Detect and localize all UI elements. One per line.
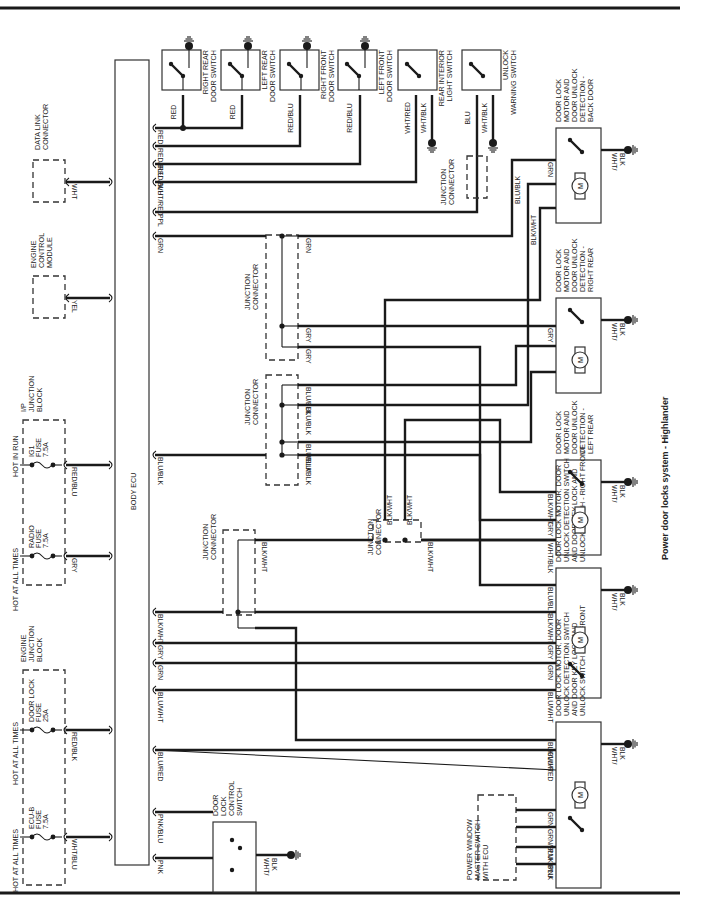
rightfront-w1-label: BLK/WHT: [547, 614, 554, 644]
door-switch-1-ground-icon: [243, 37, 253, 50]
backdoor-w0-label: GRN: [547, 162, 554, 177]
lf-redblu-wire: [155, 95, 360, 164]
splice-dot: [402, 537, 407, 542]
label-line: SWITCH: [235, 788, 244, 816]
splice-dot: [238, 846, 242, 850]
splice-dot: [230, 838, 234, 842]
door-switch-3-label: LEFT FRONTDOOR SWITCH: [377, 49, 394, 102]
wiring-diagram: Power door locks system - HighlanderBODY…: [0, 0, 703, 921]
ecu-wire-5-label: GRN: [157, 238, 164, 253]
label-line: CONNECTOR: [251, 264, 260, 310]
door-switch-0-box: [162, 50, 201, 90]
leftrear-w0-label: BLK/WHT: [547, 494, 554, 524]
ecu-wire-13-label: PNK: [157, 860, 164, 874]
door-lock-control-switch-label: DOORLOCKCONTROLSWITCH: [211, 781, 244, 816]
ecu-wire-10-label: BLU/WHT: [157, 692, 164, 723]
ecu-wire-3-label: WHT/RED: [157, 184, 164, 216]
label-line: BLOCK: [35, 387, 44, 412]
junction-connector-grn-gry-label: JUNCTIONCONNECTOR: [243, 264, 260, 310]
motor-label: M: [576, 792, 585, 798]
rightfront-w3-label: GRN: [547, 665, 554, 680]
label-line: WHT/: [611, 747, 618, 764]
data-link-wire-label: WHT: [71, 184, 78, 199]
junction-connector-center-label: JUNCTIONCONNECTOR: [366, 509, 383, 555]
label-line: 7.5A: [41, 533, 50, 548]
jc-blublk-3-label: BLU/BLK: [305, 457, 312, 485]
jc-blublk-1-label: BLU/BLK: [305, 407, 312, 435]
fuse-doorlock-label: DOOR LOCKFUSE25A: [27, 679, 50, 722]
rf-redblu-wire: [155, 95, 300, 146]
door-switch-2-ground-icon: [302, 37, 312, 50]
rr-blublk2-wire: [298, 372, 556, 442]
interior-whtred-wire: [155, 95, 416, 182]
label-line: DOOR SWITCH: [385, 50, 394, 102]
backdoor-w2-label: BLK/WHT: [530, 215, 537, 245]
interior-w1-label: WHT/RED: [404, 102, 411, 134]
leftfront-w5-label: PNK: [547, 866, 554, 880]
label-line: DOOR SWITCH: [327, 50, 336, 102]
motor-label: M: [576, 637, 585, 643]
label-line: 7.5A: [41, 442, 50, 457]
ip-junction-block-label: I/PJUNCTIONBLOCK: [19, 376, 44, 412]
ecu-wire-6-label: BLU/BLK: [157, 457, 164, 485]
label-line: WHT/: [611, 593, 618, 610]
label-line: WHT/: [611, 485, 618, 502]
leftfront-w1-label: BLU/RED: [547, 752, 554, 782]
motor-leftfront-icon: M: [572, 782, 588, 808]
motor-label: M: [576, 183, 585, 189]
jc-grn-gry-0-label: GRN: [305, 238, 312, 253]
actuator-4-ground-label: WHT/BLK: [611, 747, 626, 764]
label-line: 25A: [41, 709, 50, 722]
unlock-ground-icon: [488, 139, 498, 152]
actuator-1-box: [556, 298, 601, 393]
leftfront-blkwht-wire: [255, 628, 556, 740]
leftfront-w2-label: GRN: [547, 812, 554, 827]
door-switch-1-label: LEFT REARDOOR SWITCH: [260, 50, 277, 102]
junction-connector-blkwht-box: [223, 530, 255, 615]
unlock-w2-label: WHT/BLK: [481, 102, 488, 133]
power-wire-doorlock-label: RED/BLK: [71, 732, 78, 762]
motor-rightrear-icon: M: [572, 347, 588, 373]
fuse-ecub-icon: [30, 834, 56, 840]
power-wire-ecub-label: WHT/BLU: [71, 839, 78, 870]
door-lock-control-switch-box: [213, 822, 256, 892]
ecm-label: ENGINECONTROLMODULE: [29, 233, 54, 268]
splice-dot: [279, 402, 284, 407]
ecm-box: [33, 276, 65, 318]
label-line: BLK: [619, 593, 626, 606]
door-switch-0-label: RIGHT REARDOOR SWITCH: [201, 50, 218, 102]
splice-dot: [279, 452, 284, 457]
ground-terminal: [185, 42, 193, 50]
center-jc-1-label: BLK/WHT: [406, 495, 413, 525]
rr-blublk-wire: [298, 346, 556, 385]
junction-connector-blublk-label: JUNCTIONCONNECTOR: [243, 379, 260, 425]
backdoor-blkwht-wire: [385, 208, 556, 520]
label-line: WHT/: [611, 323, 618, 340]
fuse-ecub-label: ECU-BFUSE7.5A: [27, 806, 50, 829]
label-line: 7.5A: [41, 814, 50, 829]
label-line: CONNECTOR: [209, 514, 218, 560]
motor-label: M: [576, 517, 585, 523]
door-switch-1-box: [221, 50, 260, 90]
unlock-blu-wire: [155, 95, 477, 212]
splice-dot: [180, 125, 186, 131]
power-condition-ig1: HOT IN RUN: [11, 435, 20, 477]
door-switch-4-label: REAR INTERIORLIGHT SWITCH: [437, 50, 454, 106]
splice-dot: [382, 537, 387, 542]
data-link-connector-box: [33, 160, 65, 202]
door-switch-5-box: [462, 50, 501, 90]
rightfront-w0-label: BLU/BLK: [547, 587, 554, 615]
motor-rightfront-icon: M: [572, 627, 588, 653]
lr-wire-label: RED: [229, 105, 236, 119]
label-line: RIGHT REAR: [586, 248, 595, 292]
label-line: CONNECTOR: [447, 159, 456, 205]
unlock-w1-label: BLU: [464, 111, 471, 124]
actuator-2-label: DOOR LOCKMOTOR ANDDOOR UNLOCKDETECTION -…: [554, 400, 595, 454]
door-switch-2-label: RIGHT FRONTDOOR SWITCH: [319, 49, 336, 102]
ground-terminal: [489, 139, 497, 147]
interior-ground-icon: [427, 139, 437, 152]
label-line: WHT/: [611, 153, 618, 170]
ecu-wire-0-label: RED: [157, 130, 164, 144]
door-switch-5-label: UNLOCKWARNING SWITCH: [501, 50, 518, 115]
ground-terminal: [303, 42, 311, 50]
